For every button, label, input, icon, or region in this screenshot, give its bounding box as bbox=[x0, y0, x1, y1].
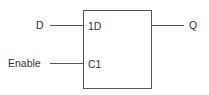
pin-label-c1: C1 bbox=[88, 59, 101, 70]
output-wire-q bbox=[151, 25, 184, 26]
pin-label-1d: 1D bbox=[88, 21, 101, 32]
signal-label-q: Q bbox=[189, 20, 197, 31]
d-latch-diagram: D Enable 1D C1 Q bbox=[0, 0, 209, 95]
signal-label-d: D bbox=[36, 20, 44, 31]
input-wire-d bbox=[50, 25, 83, 26]
signal-label-enable: Enable bbox=[8, 58, 41, 69]
input-wire-enable bbox=[50, 63, 83, 64]
